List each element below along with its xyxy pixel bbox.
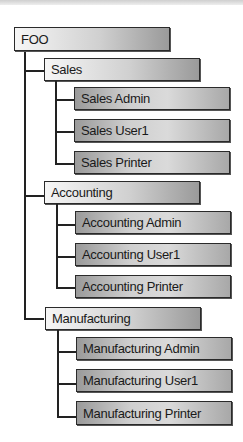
leaf-label: Sales Admin	[81, 91, 150, 106]
leaf-label: Accounting User1	[82, 247, 180, 262]
root-label: FOO	[21, 32, 48, 47]
connector	[55, 99, 75, 101]
leaf-node: Sales Admin	[74, 87, 230, 110]
connector	[56, 224, 76, 226]
connector	[55, 131, 75, 133]
leaf-node: Manufacturing User1	[76, 369, 232, 392]
manufacturing-trunk-line	[57, 330, 59, 417]
accounting-trunk-line	[56, 204, 58, 288]
leaf-node: Accounting Admin	[75, 211, 231, 234]
root-node: FOO	[14, 27, 170, 51]
group-node-manufacturing: Manufacturing	[45, 307, 201, 330]
group-node-accounting: Accounting	[44, 181, 200, 204]
connector	[57, 416, 77, 418]
leaf-label: Manufacturing Printer	[83, 406, 201, 421]
connector	[57, 383, 77, 385]
leaf-node: Sales Printer	[74, 151, 230, 174]
connector-manufacturing	[24, 318, 44, 320]
leaf-node: Accounting Printer	[75, 275, 231, 298]
leaf-label: Sales User1	[81, 123, 149, 138]
group-node-sales: Sales	[44, 58, 200, 81]
group-label: Manufacturing	[52, 311, 130, 326]
top-border	[0, 0, 243, 5]
connector	[56, 287, 76, 289]
leaf-label: Accounting Admin	[82, 215, 181, 230]
leaf-label: Manufacturing User1	[83, 373, 198, 388]
leaf-node: Accounting User1	[75, 243, 231, 266]
connector	[56, 256, 76, 258]
group-label: Sales	[51, 62, 82, 77]
group-label: Accounting	[51, 185, 112, 200]
leaf-label: Sales Printer	[81, 155, 152, 170]
connector-sales	[24, 70, 44, 72]
leaf-node: Sales User1	[74, 119, 230, 142]
leaf-node: Manufacturing Admin	[76, 337, 232, 360]
root-trunk-line	[24, 50, 26, 318]
sales-trunk-line	[55, 81, 57, 164]
connector	[55, 163, 75, 165]
leaf-label: Manufacturing Admin	[83, 341, 199, 356]
connector-accounting	[24, 195, 44, 197]
leaf-node: Manufacturing Printer	[76, 401, 232, 425]
leaf-label: Accounting Printer	[82, 279, 183, 294]
connector	[57, 351, 77, 353]
